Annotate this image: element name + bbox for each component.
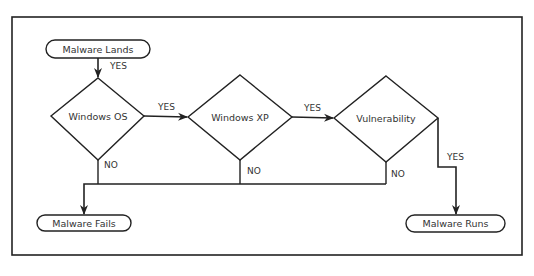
- node-windows-xp: Windows XP: [188, 75, 292, 160]
- edge-label: NO: [391, 169, 405, 179]
- node-malware-lands: Malware Lands: [46, 40, 150, 58]
- node-vulnerability: Vulnerability: [334, 76, 438, 162]
- edge-label: YES: [157, 102, 175, 112]
- node-label: Vulnerability: [356, 113, 416, 124]
- edge-label: NO: [104, 160, 118, 170]
- node-label: Malware Fails: [52, 218, 116, 229]
- node-windows-os: Windows OS: [51, 78, 144, 160]
- edge-label: YES: [109, 61, 127, 71]
- node-label: Windows OS: [69, 111, 128, 122]
- edge-xp-to-vulnerability: [292, 117, 333, 118]
- edge-label: NO: [247, 166, 261, 176]
- edge-vulnerability-to-runs: [438, 118, 456, 214]
- node-malware-fails: Malware Fails: [37, 215, 131, 231]
- edge-label: YES: [303, 103, 321, 113]
- edge-label: YES: [446, 152, 464, 162]
- node-label: Windows XP: [211, 112, 269, 123]
- node-label: Malware Runs: [423, 218, 489, 229]
- edge-no-to-fails: [84, 184, 386, 214]
- node-malware-runs: Malware Runs: [406, 215, 505, 232]
- edge-os-to-xp: [144, 116, 187, 117]
- flowchart: Malware Lands YES Windows OS YES Windows…: [0, 0, 534, 276]
- node-label: Malware Lands: [63, 44, 134, 55]
